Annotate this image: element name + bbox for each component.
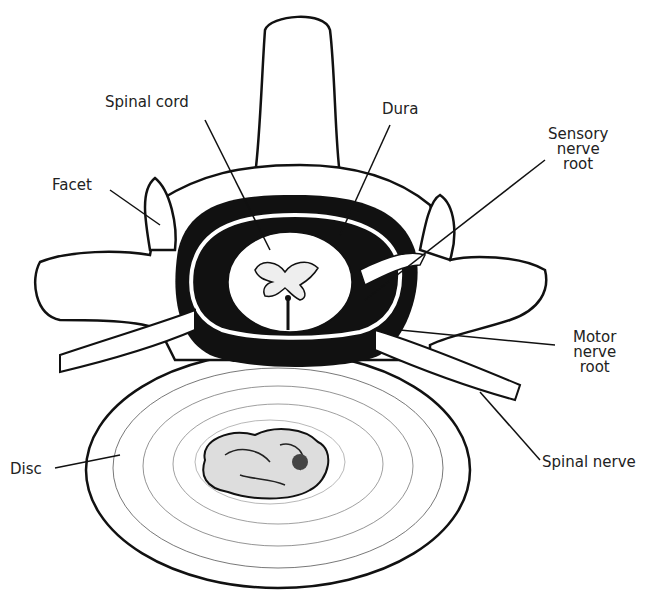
- label-spinal-cord: Spinal cord: [105, 95, 189, 110]
- label-motor-line-3: root: [573, 360, 616, 375]
- label-dura: Dura: [382, 102, 418, 117]
- label-facet: Facet: [52, 178, 92, 193]
- diagram-canvas: Spinal cord Dura Sensory nerve root Face…: [0, 0, 646, 598]
- nucleus-pulposus: [203, 429, 328, 498]
- label-spinal-nerve: Spinal nerve: [542, 455, 636, 470]
- label-motor-nerve-root: Motor nerve root: [573, 330, 616, 375]
- label-sensory-line-3: root: [548, 157, 608, 172]
- vertebra-illustration: [0, 0, 646, 598]
- spinous-process: [255, 17, 340, 175]
- label-disc: Disc: [10, 462, 42, 477]
- label-sensory-nerve-root: Sensory nerve root: [548, 127, 608, 172]
